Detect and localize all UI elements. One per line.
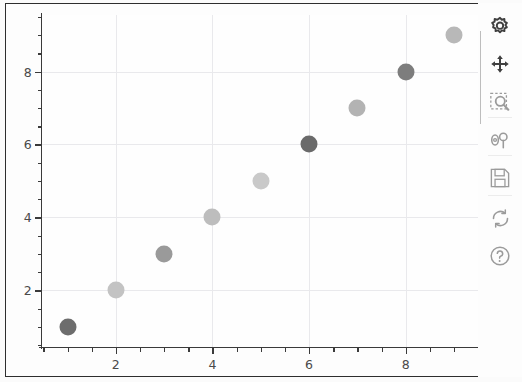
x-axis-tick-major (212, 348, 213, 354)
help-icon (489, 245, 511, 267)
y-axis-tick-minor (38, 345, 42, 346)
toolbar-divider (480, 31, 481, 124)
y-axis-tick-minor (38, 236, 42, 237)
x-axis-tick-label: 8 (402, 357, 410, 372)
x-axis-tick-minor (454, 348, 455, 352)
y-axis-tick-minor (38, 181, 42, 182)
scatter-point[interactable] (446, 27, 463, 44)
x-axis-tick-minor (164, 348, 165, 352)
y-axis-tick-minor (38, 17, 42, 18)
y-axis-tick-minor (38, 327, 42, 328)
subplot-sliders-icon (489, 129, 511, 151)
x-axis-tick-label: 2 (112, 357, 120, 372)
figure-canvas[interactable]: 2468 2468 (6, 4, 514, 376)
y-axis-tick-major (35, 144, 41, 145)
x-axis-tick-minor (43, 348, 44, 352)
configure-icon (489, 15, 511, 37)
zoom-rect-icon (489, 91, 511, 113)
gridline-vertical (212, 15, 213, 348)
x-axis-tick-minor (68, 348, 69, 352)
x-axis-tick-minor (333, 348, 334, 352)
scatter-point[interactable] (252, 172, 269, 189)
y-axis-tick-major (35, 290, 41, 291)
y-axis-tick-minor (38, 53, 42, 54)
refresh-icon (490, 208, 511, 229)
toolbar-button-help[interactable] (482, 239, 518, 273)
y-axis-tick-minor (38, 199, 42, 200)
save-icon (489, 167, 511, 189)
x-axis-tick-minor (382, 348, 383, 352)
scatter-point[interactable] (397, 63, 414, 80)
x-axis-tick-minor (188, 348, 189, 352)
y-axis-tick-minor (38, 35, 42, 36)
y-axis-tick-minor (38, 254, 42, 255)
gridline-vertical (309, 15, 310, 348)
y-axis-tick-label: 6 (24, 137, 32, 152)
x-axis-tick-minor (430, 348, 431, 352)
scatter-point[interactable] (204, 209, 221, 226)
scatter-point[interactable] (107, 282, 124, 299)
plot-area[interactable]: 2468 2468 (41, 15, 484, 348)
toolbar-separator (488, 195, 512, 196)
y-axis-tick-label: 4 (24, 210, 32, 225)
toolbar-separator (488, 155, 512, 156)
x-axis-tick-minor (92, 348, 93, 352)
toolbar-button-move[interactable] (482, 47, 518, 81)
x-axis-tick-minor (237, 348, 238, 352)
toolbar-button-configure[interactable] (482, 9, 518, 43)
y-axis-tick-major (35, 217, 41, 218)
toolbar-button-zoom-rect[interactable] (482, 85, 518, 119)
x-axis-tick-major (116, 348, 117, 354)
y-axis-tick-minor (38, 108, 42, 109)
x-axis-tick-minor (140, 348, 141, 352)
x-axis-tick-minor (357, 348, 358, 352)
toolbar-separator (488, 117, 512, 118)
toolbar-button-save[interactable] (482, 161, 518, 195)
scatter-point[interactable] (349, 100, 366, 117)
figure-toolbar (478, 3, 522, 377)
x-axis-tick-label: 6 (305, 357, 313, 372)
x-axis-tick-major (406, 348, 407, 354)
scatter-point[interactable] (156, 245, 173, 262)
toolbar-button-subplot-sliders[interactable] (482, 123, 518, 157)
scatter-point[interactable] (59, 318, 76, 335)
y-axis-tick-minor (38, 309, 42, 310)
x-axis-tick-minor (285, 348, 286, 352)
y-axis-tick-minor (38, 163, 42, 164)
move-icon (490, 54, 510, 74)
scatter-plot-viewer-window: 2468 2468 (0, 0, 522, 382)
y-axis-tick-minor (38, 90, 42, 91)
x-axis-tick-major (309, 348, 310, 354)
y-axis-spine (41, 13, 42, 349)
toolbar-button-refresh[interactable] (482, 201, 518, 235)
gridline-horizontal (41, 72, 484, 73)
figure-frame: 2468 2468 (5, 3, 515, 377)
y-axis-tick-label: 8 (24, 64, 32, 79)
y-axis-tick-major (35, 72, 41, 73)
y-axis-tick-minor (38, 126, 42, 127)
x-axis-tick-label: 4 (208, 357, 216, 372)
gridline-horizontal (41, 217, 484, 218)
gridline-horizontal (41, 144, 484, 145)
y-axis-tick-minor (38, 272, 42, 273)
y-axis-tick-label: 2 (24, 283, 32, 298)
x-axis-tick-minor (261, 348, 262, 352)
scatter-point[interactable] (301, 136, 318, 153)
